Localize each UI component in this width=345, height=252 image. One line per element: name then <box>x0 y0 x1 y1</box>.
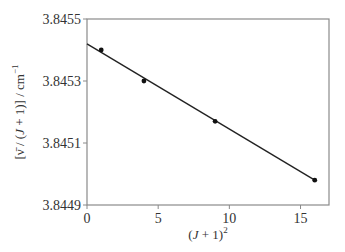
y-tick-label: 3.8451 <box>43 136 82 151</box>
data-point <box>312 178 317 183</box>
fit-line-path <box>87 44 315 180</box>
x-axis-label: (J + 1)2 <box>188 225 227 242</box>
data-point <box>99 48 104 53</box>
data-point <box>142 79 147 84</box>
x-tick-label: 15 <box>294 211 308 226</box>
x-tick-label: 5 <box>155 211 162 226</box>
x-tick-label: 10 <box>222 211 236 226</box>
x-tick-label: 0 <box>84 211 91 226</box>
plot-area-frame <box>87 19 329 205</box>
y-axis-label: [ν̄ / (J + 1)] / cm−1 <box>10 64 27 159</box>
y-tick-label: 3.8455 <box>43 12 82 27</box>
y-axis-ticks: 3.84493.84513.84533.8455 <box>43 12 88 213</box>
y-tick-label: 3.8449 <box>43 198 82 213</box>
fit-line <box>87 44 315 180</box>
x-axis-ticks: 051015 <box>84 205 308 226</box>
chart: 051015 3.84493.84513.84533.8455 (J + 1)2… <box>0 0 345 252</box>
y-tick-label: 3.8453 <box>43 74 82 89</box>
data-point <box>213 119 218 124</box>
